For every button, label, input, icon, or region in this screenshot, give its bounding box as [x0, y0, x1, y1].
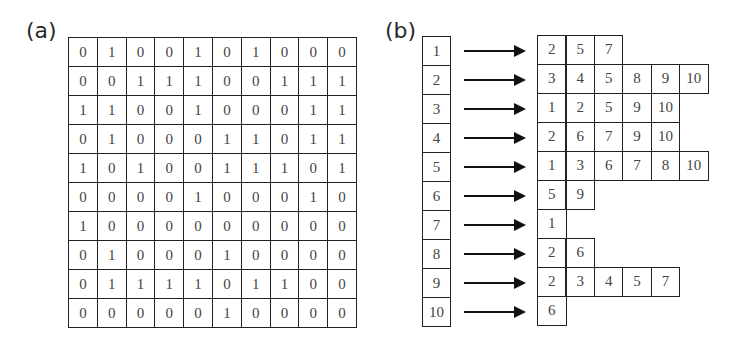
matrix-cell: 0 — [155, 38, 184, 67]
matrix-cell: 0 — [212, 212, 241, 241]
arrow-icon — [464, 253, 516, 255]
matrix-cell: 0 — [155, 183, 184, 212]
matrix-cell: 1 — [241, 154, 270, 183]
arrow-icon — [464, 79, 516, 81]
matrix-row: 0100011011 — [69, 125, 357, 154]
matrix-cell: 1 — [328, 67, 357, 96]
matrix-cell: 0 — [69, 183, 98, 212]
matrix-cell: 1 — [241, 38, 270, 67]
matrix-cell: 0 — [241, 241, 270, 270]
neighbor-cell: 8 — [651, 151, 681, 181]
arrow-icon — [464, 282, 516, 284]
matrix-cell: 0 — [328, 212, 357, 241]
matrix-cell: 1 — [155, 67, 184, 96]
vertex-index-cell: 8 — [423, 240, 451, 269]
matrix-cell: 0 — [328, 183, 357, 212]
matrix-cell: 0 — [97, 212, 126, 241]
matrix-cell: 0 — [126, 299, 155, 328]
matrix-cell: 1 — [184, 270, 213, 299]
matrix-cell: 1 — [69, 96, 98, 125]
matrix-cell: 0 — [155, 125, 184, 154]
matrix-cell: 0 — [97, 183, 126, 212]
matrix-cell: 0 — [299, 38, 328, 67]
arrow-icon — [464, 224, 516, 226]
neighbor-cell: 1 — [537, 93, 567, 123]
matrix-cell: 1 — [184, 183, 213, 212]
matrix-cell: 1 — [184, 38, 213, 67]
matrix-cell: 0 — [184, 299, 213, 328]
matrix-cell: 1 — [184, 96, 213, 125]
neighbor-cell: 10 — [651, 93, 681, 123]
neighbor-cell: 4 — [565, 64, 595, 94]
vertex-index-column: 12345678910 — [422, 36, 451, 327]
matrix-cell: 1 — [126, 270, 155, 299]
matrix-cell: 0 — [184, 154, 213, 183]
vertex-index-cell: 4 — [423, 124, 451, 153]
matrix-row: 0111101100 — [69, 270, 357, 299]
neighbor-cell: 1 — [537, 209, 567, 239]
matrix-row: 1000000000 — [69, 212, 357, 241]
neighbor-cell: 6 — [565, 122, 595, 152]
neighbor-cell: 4 — [594, 267, 624, 297]
matrix-cell: 0 — [270, 212, 299, 241]
matrix-cell: 1 — [299, 96, 328, 125]
matrix-row: 1100100011 — [69, 96, 357, 125]
matrix-cell: 0 — [69, 299, 98, 328]
matrix-cell: 0 — [212, 67, 241, 96]
neighbor-cell: 7 — [622, 151, 652, 181]
matrix-cell: 0 — [69, 241, 98, 270]
matrix-cell: 1 — [328, 96, 357, 125]
matrix-cell: 0 — [299, 241, 328, 270]
matrix-row: 0000100010 — [69, 183, 357, 212]
matrix-cell: 0 — [155, 299, 184, 328]
panel-b-label: (b) — [385, 18, 416, 43]
matrix-cell: 0 — [97, 299, 126, 328]
panel-a-label: (a) — [26, 18, 57, 43]
matrix-cell: 0 — [328, 270, 357, 299]
matrix-cell: 1 — [69, 212, 98, 241]
matrix-cell: 1 — [97, 241, 126, 270]
matrix-cell: 0 — [69, 38, 98, 67]
matrix-cell: 0 — [184, 125, 213, 154]
neighbor-cell: 3 — [565, 267, 595, 297]
matrix-cell: 0 — [328, 241, 357, 270]
arrow-icon — [464, 195, 516, 197]
vertex-index-cell: 5 — [423, 153, 451, 182]
adjacency-list-row: 6 — [537, 297, 567, 326]
neighbor-cell: 10 — [679, 151, 709, 181]
vertex-index-cell: 2 — [423, 66, 451, 95]
matrix-cell: 0 — [299, 154, 328, 183]
matrix-row: 0000010000 — [69, 299, 357, 328]
matrix-cell: 0 — [212, 38, 241, 67]
neighbor-cell: 5 — [594, 64, 624, 94]
matrix-cell: 1 — [212, 299, 241, 328]
matrix-cell: 0 — [184, 241, 213, 270]
matrix-cell: 0 — [69, 270, 98, 299]
matrix-cell: 0 — [328, 299, 357, 328]
matrix-row: 1010011101 — [69, 154, 357, 183]
neighbor-cell: 7 — [594, 122, 624, 152]
matrix-cell: 1 — [97, 270, 126, 299]
neighbor-cell: 1 — [537, 151, 567, 181]
matrix-cell: 0 — [155, 154, 184, 183]
adjacency-matrix: 0100101000001110011111001000110100011011… — [68, 37, 357, 328]
matrix-cell: 0 — [184, 212, 213, 241]
neighbor-cell: 3 — [565, 151, 595, 181]
matrix-cell: 0 — [270, 241, 299, 270]
matrix-cell: 1 — [212, 241, 241, 270]
matrix-cell: 1 — [212, 154, 241, 183]
matrix-cell: 1 — [126, 67, 155, 96]
matrix-cell: 1 — [97, 96, 126, 125]
matrix-cell: 1 — [184, 67, 213, 96]
matrix-cell: 1 — [126, 154, 155, 183]
matrix-cell: 0 — [155, 241, 184, 270]
matrix-cell: 0 — [97, 67, 126, 96]
vertex-index-cell: 7 — [423, 211, 451, 240]
neighbor-cell: 9 — [651, 64, 681, 94]
matrix-cell: 0 — [97, 154, 126, 183]
neighbor-cell: 5 — [537, 180, 567, 210]
matrix-cell: 0 — [212, 270, 241, 299]
matrix-cell: 0 — [126, 96, 155, 125]
vertex-index-cell: 3 — [423, 95, 451, 124]
matrix-row: 0011100111 — [69, 67, 357, 96]
